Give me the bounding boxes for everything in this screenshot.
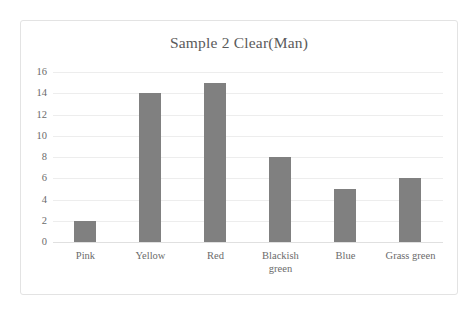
y-axis-tick-label: 2 bbox=[42, 216, 47, 227]
bar[interactable] bbox=[204, 83, 226, 242]
x-axis-tick-label: Grass green bbox=[370, 249, 450, 262]
bar-group: Red bbox=[183, 72, 248, 242]
bar[interactable] bbox=[74, 221, 96, 242]
y-axis-tick-label: 4 bbox=[42, 194, 47, 205]
bar-group: Grass green bbox=[378, 72, 443, 242]
bar[interactable] bbox=[139, 93, 161, 242]
y-axis-tick-label: 0 bbox=[42, 237, 47, 248]
y-axis-tick-label: 12 bbox=[37, 109, 48, 120]
bar-group: Blue bbox=[313, 72, 378, 242]
y-axis-tick-label: 6 bbox=[42, 173, 47, 184]
bar-group: Blackish green bbox=[248, 72, 313, 242]
bar[interactable] bbox=[269, 157, 291, 242]
chart-frame: Sample 2 Clear(Man) 0246810121416 PinkYe… bbox=[20, 20, 458, 295]
bars-layer: PinkYellowRedBlackish greenBlueGrass gre… bbox=[53, 72, 443, 242]
y-axis-tick-label: 10 bbox=[37, 131, 48, 142]
y-axis-tick-label: 16 bbox=[37, 67, 48, 78]
bar[interactable] bbox=[334, 189, 356, 242]
chart-title: Sample 2 Clear(Man) bbox=[21, 34, 457, 52]
bar-group: Yellow bbox=[118, 72, 183, 242]
gridline bbox=[53, 242, 443, 243]
bar-group: Pink bbox=[53, 72, 118, 242]
y-axis-tick-label: 8 bbox=[42, 152, 47, 163]
y-axis-tick-label: 14 bbox=[37, 88, 48, 99]
bar[interactable] bbox=[399, 178, 421, 242]
plot-area: 0246810121416 PinkYellowRedBlackish gree… bbox=[53, 72, 443, 242]
